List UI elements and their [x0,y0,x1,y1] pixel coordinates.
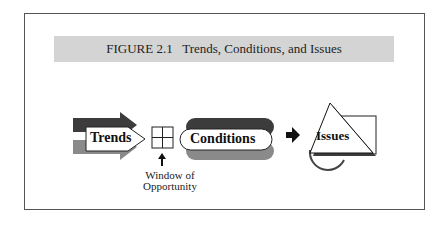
caption-line-2: Opportunity [130,181,210,192]
issues-label: Issues [316,128,349,144]
arrow-up-icon [158,153,166,166]
trends-label: Trends [90,130,132,146]
conditions-label: Conditions [190,131,255,147]
arrow-right-icon [286,127,300,143]
window-of-opportunity-caption: Window of Opportunity [130,170,210,192]
diagram-canvas [0,0,448,232]
window-grid-icon [152,127,173,148]
